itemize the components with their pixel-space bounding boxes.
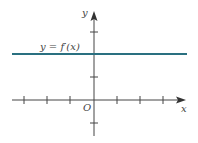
curve-label: y = f′(x) — [39, 41, 80, 52]
y-axis-label: y — [81, 7, 88, 18]
x-axis-label: x — [181, 103, 187, 114]
graph: y = f′(x) y x O — [0, 0, 198, 143]
origin-label: O — [83, 102, 91, 113]
